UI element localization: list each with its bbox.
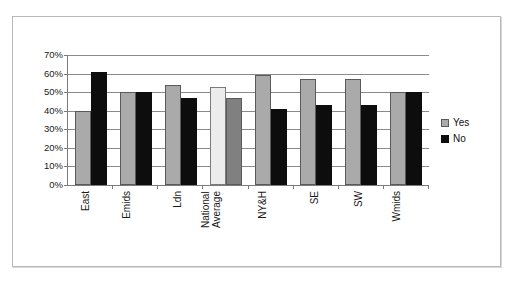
x-axis-label: SW [353,191,364,207]
x-axis-tick [203,185,248,189]
x-axis-label-cell: Wmids [384,191,429,267]
x-axis-tick [384,185,429,189]
y-axis-tick-label: 60% [44,69,63,79]
x-axis-label-cell: NY&H [248,191,293,267]
bar-group [113,55,158,185]
bar-group [158,55,203,185]
x-axis-label-cell: SW [339,191,384,267]
y-axis-tick-label: 70% [44,50,63,60]
bar-yes [345,79,361,185]
legend-item: Yes [441,117,497,128]
y-axis-tick-label: 20% [44,143,63,153]
y-axis-tick-label: 40% [44,106,63,116]
bar-no [226,98,242,185]
y-axis-tick-label: 0% [49,180,63,190]
x-axis-labels: EastEmidsLdnNational AverageNY&HSESWWmid… [67,191,429,267]
legend-label: Yes [453,117,469,128]
legend-item: No [441,133,497,144]
bar-no [316,105,332,185]
x-axis-ticks [68,185,429,189]
bar-no [181,98,197,185]
x-axis-tick [249,185,294,189]
bar-yes [75,111,91,185]
x-axis-label: Wmids [391,191,402,222]
x-axis-label-cell: National Average [203,191,248,267]
bar-yes [210,87,226,185]
x-axis-label: Emids [121,191,132,219]
legend-swatch-icon [441,119,449,127]
bar-group [203,55,248,185]
bar-yes [300,79,316,185]
bar-groups [68,55,429,185]
bar-yes [165,85,181,185]
x-axis-label-cell: East [67,191,112,267]
x-axis-label: National Average [201,191,223,228]
bar-no [136,92,152,185]
x-axis-tick [113,185,158,189]
x-axis-tick [68,185,113,189]
bar-yes [255,75,271,185]
bar-no [406,92,422,185]
x-axis-label: Ldn [172,191,183,208]
bar-group [384,55,429,185]
bar-yes [120,92,136,185]
x-axis-label: East [80,191,91,211]
x-axis-label: NY&H [257,191,268,219]
x-axis-tick [339,185,384,189]
bar-no [91,72,107,185]
x-axis-tick [158,185,203,189]
bar-group [68,55,113,185]
x-axis-label-cell: Ldn [158,191,203,267]
x-axis-label-cell: Emids [112,191,157,267]
x-axis-tick [294,185,339,189]
chart-legend: YesNo [441,117,497,149]
legend-label: No [453,133,466,144]
y-axis-tick-label: 10% [44,162,63,172]
y-axis-tick-label: 50% [44,87,63,97]
bar-no [361,105,377,185]
bar-group [294,55,339,185]
plot-area: 0%10%20%30%40%50%60%70% [67,55,429,186]
clipped-title-text [0,0,515,13]
bar-group [339,55,384,185]
y-axis-tick-label: 30% [44,125,63,135]
bar-yes [390,92,406,185]
legend-swatch-icon [441,135,449,143]
chart-frame: 0%10%20%30%40%50%60%70% EastEmidsLdnNati… [12,16,501,267]
screenshot-root: 0%10%20%30%40%50%60%70% EastEmidsLdnNati… [0,0,515,282]
x-axis-label-cell: SE [293,191,338,267]
bar-no [271,109,287,185]
x-axis-label: SE [309,191,320,204]
bar-group [249,55,294,185]
